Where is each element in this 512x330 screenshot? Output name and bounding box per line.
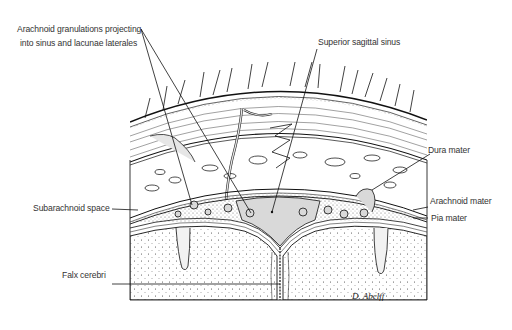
label-subarachnoid-space: Subarachnoid space bbox=[33, 203, 110, 213]
label-falx-cerebri: Falx cerebri bbox=[62, 270, 106, 280]
label-pia-mater: Pia mater bbox=[431, 213, 467, 223]
label-superior-sagittal-sinus: Superior sagittal sinus bbox=[318, 37, 400, 47]
artist-signature: D. Abelff bbox=[351, 291, 386, 301]
label-arachnoid-granulations-line1: Arachnoid granulations projecting bbox=[17, 24, 141, 34]
label-arachnoid-mater: Arachnoid mater bbox=[430, 196, 492, 206]
label-dura-mater: Dura mater bbox=[428, 145, 470, 155]
meninges-illustration: D. Abelff bbox=[0, 0, 512, 330]
label-arachnoid-granulations-line2: into sinus and lacunae laterales bbox=[20, 38, 137, 48]
